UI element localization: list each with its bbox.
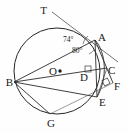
point-label-o: O <box>49 65 57 77</box>
point-label-c: C <box>108 64 115 76</box>
point-label-d: D <box>80 71 88 83</box>
segment-tangent-through-a <box>52 12 118 62</box>
angle-label-74: 74° <box>63 35 74 44</box>
geometry-figure: T A B C D E F G O 74° 80° <box>0 0 128 133</box>
point-label-a: A <box>98 31 106 43</box>
segment-b-e <box>14 82 97 97</box>
point-label-t: T <box>40 4 47 16</box>
point-label-g: G <box>47 117 55 129</box>
point-label-b: B <box>6 76 13 88</box>
point-label-e: E <box>99 96 106 108</box>
point-label-f: F <box>114 80 120 92</box>
centre-dot <box>58 69 61 72</box>
segment-b-g <box>14 82 50 114</box>
geometry-canvas: T A B C D E F G O 74° 80° <box>0 0 128 133</box>
angle-label-80: 80° <box>72 46 83 55</box>
angle-arc-80 <box>89 50 94 54</box>
